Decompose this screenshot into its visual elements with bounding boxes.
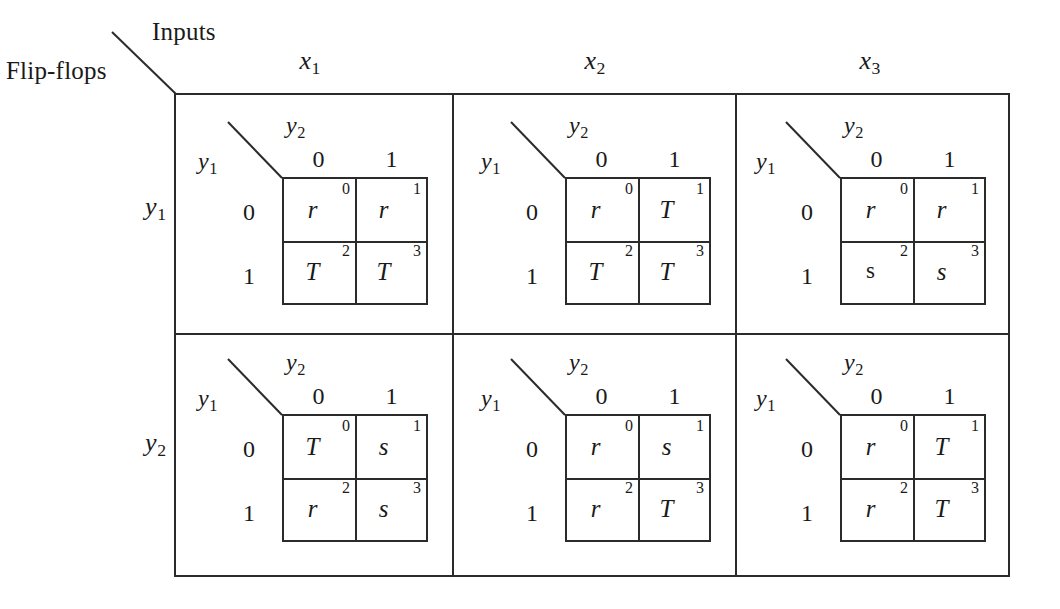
- kmap-col-label-0: 0: [840, 383, 913, 410]
- kmap-diagonal-line: [226, 357, 284, 417]
- outer-row-divider: [176, 333, 1008, 335]
- kmap-cell-1[interactable]: 1 T: [638, 179, 709, 241]
- kmap-cell-0[interactable]: 0 r: [842, 416, 913, 478]
- kmap-diagonal-line: [226, 120, 284, 180]
- kmap-cell-index: 0: [900, 180, 908, 198]
- kmap-axis-y1-base: y: [756, 148, 767, 174]
- kmap-cell-3[interactable]: 3 T: [913, 478, 984, 540]
- kmap-axis-label-y1: y1: [756, 148, 775, 179]
- kmap-axis-y2-base: y: [844, 349, 855, 375]
- kmap-cell-2[interactable]: 2 r: [567, 478, 638, 540]
- kmap-axis-y1-base: y: [198, 148, 209, 174]
- kmap-axis-label-y1: y1: [481, 385, 500, 416]
- kmap-axis-y2-sub: 2: [580, 360, 588, 379]
- kmap-cell-2[interactable]: 2 T: [567, 241, 638, 303]
- kmap-axis-y2-base: y: [569, 112, 580, 138]
- kmap-col-label-0: 0: [282, 146, 355, 173]
- kmap-cell-0[interactable]: 0 r: [567, 416, 638, 478]
- kmap-col-label-1: 1: [913, 146, 986, 173]
- kmap-diagonal-line: [784, 357, 842, 417]
- kmap-cell-3[interactable]: 3 T: [355, 241, 426, 303]
- kmap-cell-2[interactable]: 2 r: [842, 478, 913, 540]
- kmap-axis-y2-sub: 2: [855, 123, 863, 142]
- kmap-grid: 0 r 1 r 2 s 3 s: [840, 177, 986, 305]
- row-header-y1: y1: [90, 192, 166, 225]
- kmap-y1-x3: y2 y1 0 1 0 1 0 r 1 r 2 s 3 s: [748, 104, 980, 310]
- kmap-cell-3[interactable]: 3 T: [638, 241, 709, 303]
- kmap-axis-y1-sub: 1: [492, 159, 500, 178]
- kmap-col-label-0: 0: [565, 383, 638, 410]
- kmap-axis-y1-base: y: [756, 385, 767, 411]
- kmap-axis-y1-sub: 1: [209, 396, 217, 415]
- kmap-cell-index: 0: [342, 180, 350, 198]
- kmap-row-label-0: 0: [511, 199, 553, 226]
- kmap-cell-index: 1: [413, 417, 421, 435]
- kmap-axis-y2-sub: 2: [297, 123, 305, 142]
- kmap-cell-0[interactable]: 0 r: [284, 179, 355, 241]
- kmap-cell-value: T: [638, 258, 709, 286]
- kmap-cell-value: r: [284, 196, 355, 224]
- kmap-cell-value: r: [842, 495, 913, 523]
- kmap-row-label-1: 1: [511, 500, 553, 527]
- kmap-cell-value: T: [913, 495, 984, 523]
- kmap-cell-value: r: [284, 495, 355, 523]
- kmap-cell-3[interactable]: 3 s: [355, 478, 426, 540]
- kmap-col-label-1: 1: [913, 383, 986, 410]
- kmap-cell-0[interactable]: 0 T: [284, 416, 355, 478]
- kmap-axis-label-y1: y1: [756, 385, 775, 416]
- kmap-cell-0[interactable]: 0 r: [567, 179, 638, 241]
- kmap-col-label-0: 0: [282, 383, 355, 410]
- row-header-y1-sub: 1: [157, 204, 166, 224]
- kmap-cell-2[interactable]: 2 T: [284, 241, 355, 303]
- kmap-col-label-1: 1: [355, 146, 428, 173]
- row-header-y2: y2: [90, 428, 166, 461]
- kmap-row-label-0: 0: [228, 199, 270, 226]
- kmap-axis-label-y2: y2: [569, 112, 588, 143]
- kmap-cell-2[interactable]: 2 s: [842, 241, 913, 303]
- kmap-cell-3[interactable]: 3 T: [638, 478, 709, 540]
- kmap-axis-y1-sub: 1: [209, 159, 217, 178]
- kmap-y2-x1: y2 y1 0 1 0 1 0 T 1 s 2 r 3 s: [190, 341, 422, 547]
- kmap-cell-value: r: [913, 196, 984, 224]
- kmap-cell-value: T: [913, 433, 984, 461]
- kmap-cell-0[interactable]: 0 r: [842, 179, 913, 241]
- kmap-cell-2[interactable]: 2 r: [284, 478, 355, 540]
- kmap-grid: 0 r 1 r 2 T 3 T: [282, 177, 428, 305]
- kmap-axis-y1-sub: 1: [767, 396, 775, 415]
- kmap-cell-index: 1: [413, 180, 421, 198]
- kmap-axis-label-y1: y1: [481, 148, 500, 179]
- kmap-cell-1[interactable]: 1 r: [913, 179, 984, 241]
- kmap-cell-1[interactable]: 1 s: [355, 416, 426, 478]
- kmap-cell-index: 1: [696, 180, 704, 198]
- kmap-axis-y2-sub: 2: [855, 360, 863, 379]
- kmap-cell-index: 0: [625, 180, 633, 198]
- kmap-diagonal-line: [784, 120, 842, 180]
- kmap-cell-1[interactable]: 1 r: [355, 179, 426, 241]
- column-header-x3-sub: 3: [872, 58, 881, 78]
- column-header-x3-base: x: [860, 46, 872, 75]
- kmap-cell-3[interactable]: 3 s: [913, 241, 984, 303]
- flip-flops-label: Flip-flops: [6, 57, 107, 85]
- kmap-axis-label-y2: y2: [844, 112, 863, 143]
- column-header-x2-base: x: [585, 46, 597, 75]
- kmap-col-label-1: 1: [638, 146, 711, 173]
- corner-diagonal-line: [110, 30, 180, 98]
- kmap-col-label-0: 0: [565, 146, 638, 173]
- kmap-cell-value: s: [355, 433, 426, 461]
- kmap-cell-value: r: [567, 495, 638, 523]
- kmap-cell-1[interactable]: 1 T: [913, 416, 984, 478]
- kmap-col-label-0: 0: [840, 146, 913, 173]
- kmap-cell-value: s: [355, 495, 426, 523]
- kmap-cell-1[interactable]: 1 s: [638, 416, 709, 478]
- kmap-cell-index: 3: [696, 242, 704, 260]
- kmap-cell-index: 2: [900, 242, 908, 260]
- kmap-cell-value: s: [638, 433, 709, 461]
- kmap-row-label-0: 0: [786, 436, 828, 463]
- kmap-row-label-0: 0: [228, 436, 270, 463]
- kmap-cell-value: s: [842, 258, 913, 283]
- kmap-grid: 0 r 1 s 2 r 3 T: [565, 414, 711, 542]
- kmap-axis-label-y1: y1: [198, 385, 217, 416]
- row-header-y1-base: y: [145, 192, 157, 221]
- kmap-cell-index: 0: [625, 417, 633, 435]
- kmap-cell-index: 1: [971, 180, 979, 198]
